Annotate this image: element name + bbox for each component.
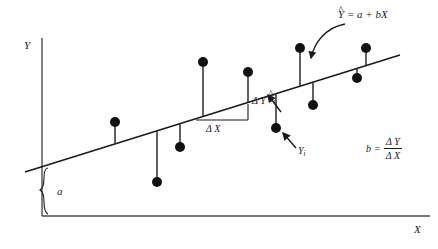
equation-intercept: a xyxy=(357,8,363,20)
slope-formula: b = Δ Y Δ X xyxy=(366,136,402,161)
intercept-brace xyxy=(40,168,48,214)
equation-equals: = xyxy=(347,8,354,20)
slope-formula-denominator: Δ X xyxy=(384,149,402,161)
hat-icon: ^ xyxy=(269,90,273,100)
axis-lines xyxy=(42,38,430,216)
regression-equation-label: ^ Y = a + bX xyxy=(338,8,388,20)
slope-formula-equals: = xyxy=(374,143,381,154)
data-point xyxy=(175,142,185,152)
data-point xyxy=(295,43,305,53)
y-axis-label: Y xyxy=(24,40,30,51)
equation-pointer-arrow xyxy=(311,24,345,58)
regression-figure: Y X a Δ Y Δ X ^ Y i Yi ^ Y = a + bX b = … xyxy=(0,0,438,249)
slope-formula-fraction: Δ Y Δ X xyxy=(384,136,402,161)
y-i-subscript: i xyxy=(304,150,306,158)
data-point xyxy=(271,123,281,133)
equation-plus: + xyxy=(365,8,372,20)
residual-stems xyxy=(115,48,366,182)
slope-formula-lhs: b xyxy=(366,143,371,154)
data-points xyxy=(110,43,371,187)
data-point xyxy=(198,57,208,67)
data-point xyxy=(352,73,362,83)
slope-formula-numerator: Δ Y xyxy=(384,136,402,149)
x-axis-label: X xyxy=(414,224,421,235)
delta-x-label: Δ X xyxy=(206,124,220,134)
regression-line xyxy=(25,55,400,172)
equation-slope-term: bX xyxy=(376,8,388,20)
hat-icon: ^ xyxy=(339,4,344,15)
y-hat-i-base-wrap: ^ Y xyxy=(268,94,274,104)
data-point xyxy=(308,100,318,110)
data-point xyxy=(243,67,253,77)
y-i-label: Yi xyxy=(298,146,306,158)
slope-triangle xyxy=(196,104,248,120)
y-i-pointer-arrow xyxy=(283,133,296,148)
delta-y-label: Δ Y xyxy=(252,96,266,106)
data-point xyxy=(361,43,371,53)
equation-y-hat-wrap: ^ Y xyxy=(338,8,344,20)
y-hat-i-label: ^ Y i xyxy=(268,94,276,106)
intercept-label: a xyxy=(57,186,63,197)
data-point xyxy=(110,117,120,127)
data-point xyxy=(152,177,162,187)
